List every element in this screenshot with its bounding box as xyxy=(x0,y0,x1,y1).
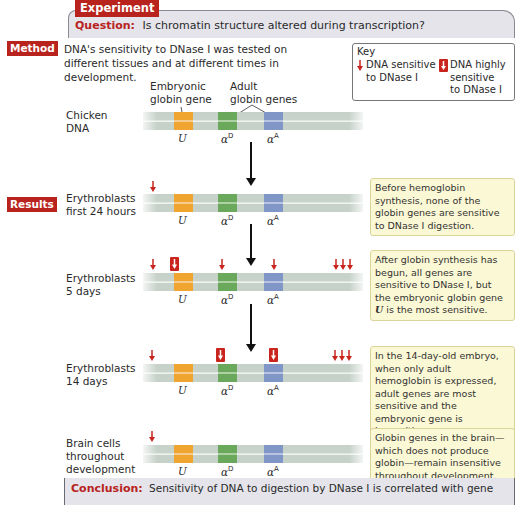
dna-strand-24-hours: U αD αA xyxy=(143,194,363,212)
row-label-24-hours: Erythroblasts first 24 hours xyxy=(66,192,136,218)
boxed-red-arrow-icon xyxy=(216,348,225,362)
gene-U xyxy=(174,445,193,463)
question-text: Is chromatin structure altered during tr… xyxy=(143,19,425,32)
dna-strand-14-days: U αD αA xyxy=(143,364,363,382)
boxed-red-arrow-icon xyxy=(170,257,179,271)
gene-alpha-D xyxy=(218,445,237,463)
boxed-red-arrow-icon xyxy=(439,59,448,72)
gene-alpha-A xyxy=(264,364,283,382)
gene-alpha-A xyxy=(264,194,283,212)
boxed-red-arrow-icon xyxy=(269,348,278,362)
gene-alpha-D xyxy=(218,194,237,212)
flow-arrow-head-icon xyxy=(246,178,256,186)
small-red-arrow-icon xyxy=(150,181,156,193)
method-tag: Method xyxy=(7,41,58,56)
row-label-brain-cells: Brain cells throughout development xyxy=(66,437,135,476)
gene-alpha-D xyxy=(218,364,237,382)
key-item-sensitive: DNA sensitive to DNase I xyxy=(357,59,436,84)
dna-strand-chicken: U αD αA xyxy=(143,112,363,130)
gene-U xyxy=(174,273,193,291)
question: Question: Is chromatin structure altered… xyxy=(75,19,425,32)
triple-red-arrow-icon xyxy=(332,350,352,362)
conclusion-label: Conclusion: xyxy=(71,482,143,495)
flow-arrow-line xyxy=(250,304,252,348)
flow-arrow-head-icon xyxy=(246,258,256,266)
small-red-arrow-icon xyxy=(357,60,363,72)
key-legend: Key DNA sensitive to DNase I DNA highly … xyxy=(352,43,515,101)
triple-red-arrow-icon xyxy=(333,259,353,271)
gene-alpha-D xyxy=(218,273,237,291)
key-title: Key xyxy=(357,46,510,59)
dna-strand-brain: U αD αA xyxy=(143,445,363,463)
conclusion-bar: Conclusion: Sensitivity of DNA to digest… xyxy=(64,478,515,505)
results-tag: Results xyxy=(7,197,57,212)
question-label: Question: xyxy=(75,19,135,32)
gene-U xyxy=(174,364,193,382)
experiment-tab: Experiment xyxy=(75,0,159,17)
row-label-chicken-dna: Chicken DNA xyxy=(66,109,108,135)
small-red-arrow-icon xyxy=(150,259,156,271)
conclusion-text: Sensitivity of DNA to digestion by DNase… xyxy=(149,482,493,494)
flow-arrow-line xyxy=(250,142,252,180)
small-red-arrow-icon xyxy=(219,259,225,271)
gene-U xyxy=(174,194,193,212)
gene-alpha-A xyxy=(264,273,283,291)
note-24-hours: Before hemoglobin synthesis, none of the… xyxy=(370,178,515,236)
flow-arrow-line xyxy=(250,224,252,260)
small-red-arrow-icon xyxy=(149,431,155,443)
key-item-highly-sensitive: DNA highly sensitive to DNase I xyxy=(439,59,506,97)
row-label-14-days: Erythroblasts 14 days xyxy=(66,362,136,388)
dna-strand-5-days: U αD αA xyxy=(143,273,363,291)
small-red-arrow-icon xyxy=(149,350,155,362)
method-text: DNA's sensitivity to DNase I was tested … xyxy=(64,42,334,84)
gene-alpha-A xyxy=(264,445,283,463)
small-red-arrow-icon xyxy=(271,259,277,271)
gene-alpha-D xyxy=(218,112,237,130)
gene-alpha-A xyxy=(264,112,283,130)
note-5-days: After globin synthesis has begun, all ge… xyxy=(370,250,515,321)
row-label-5-days: Erythroblasts 5 days xyxy=(66,272,136,298)
flow-arrow-head-icon xyxy=(246,344,256,352)
gene-U xyxy=(174,112,193,130)
